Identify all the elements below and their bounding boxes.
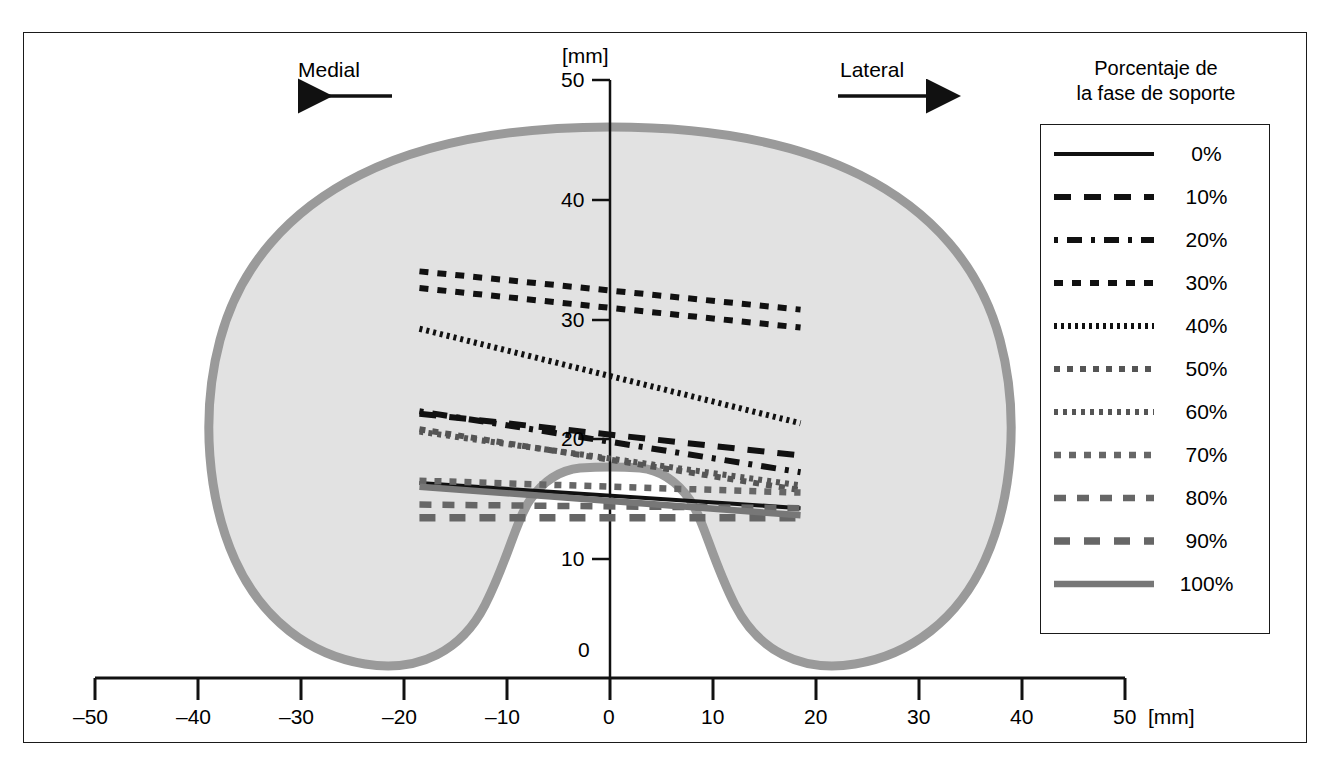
legend-label: 90% (1156, 529, 1271, 553)
x-tick--50: –50 (73, 705, 108, 729)
legend-label: 20% (1156, 228, 1271, 252)
legend-title: Porcentaje de la fase de soporte (1040, 56, 1272, 106)
figure-root: [mm] 50 40 30 20 10 0 –50 –40 –30 –20 –1… (0, 0, 1332, 761)
legend-item-50pct[interactable]: 50% (1041, 348, 1271, 390)
x-tick-30: 30 (907, 705, 930, 729)
y-tick-30: 30 (561, 308, 584, 332)
y-tick-40: 40 (561, 188, 584, 212)
legend-item-60pct[interactable]: 60% (1041, 391, 1271, 433)
legend-title-line2: la fase de soporte (1040, 81, 1272, 106)
x-tick--10: –10 (485, 705, 520, 729)
legend-item-30pct[interactable]: 30% (1041, 262, 1271, 304)
legend-box: 0%10%20%30%40%50%60%70%80%90%100% (1040, 124, 1270, 634)
legend-label: 100% (1156, 572, 1271, 596)
legend-item-0pct[interactable]: 0% (1041, 133, 1271, 175)
legend-swatch-icon (1053, 577, 1156, 591)
legend-label: 50% (1156, 357, 1271, 381)
legend-swatch-icon (1053, 448, 1156, 462)
x-axis-unit-label: [mm] (1148, 705, 1195, 729)
x-tick-0: 0 (603, 705, 615, 729)
x-tick-50: 50 (1113, 705, 1136, 729)
series-line-80pct (419, 505, 800, 509)
x-tick--30: –30 (279, 705, 314, 729)
legend-label: 30% (1156, 271, 1271, 295)
y-axis-unit-label: [mm] (562, 44, 609, 68)
y-tick-20: 20 (561, 427, 584, 451)
y-tick-50: 50 (561, 68, 584, 92)
legend-item-40pct[interactable]: 40% (1041, 305, 1271, 347)
legend-item-80pct[interactable]: 80% (1041, 477, 1271, 519)
x-tick-40: 40 (1010, 705, 1033, 729)
x-axis (95, 678, 1125, 700)
x-tick-20: 20 (804, 705, 827, 729)
x-tick--20: –20 (382, 705, 417, 729)
medial-label: Medial (298, 58, 360, 82)
legend-item-70pct[interactable]: 70% (1041, 434, 1271, 476)
legend-swatch-icon (1053, 534, 1156, 548)
legend-label: 60% (1156, 400, 1271, 424)
lateral-label: Lateral (840, 58, 904, 82)
legend-label: 40% (1156, 314, 1271, 338)
legend-swatch-icon (1053, 276, 1156, 290)
legend-item-90pct[interactable]: 90% (1041, 520, 1271, 562)
legend-swatch-icon (1053, 233, 1156, 247)
legend-swatch-icon (1053, 190, 1156, 204)
legend-item-20pct[interactable]: 20% (1041, 219, 1271, 261)
legend-label: 0% (1156, 142, 1271, 166)
y-tick-0: 0 (578, 638, 590, 662)
legend-swatch-icon (1053, 405, 1156, 419)
legend-label: 70% (1156, 443, 1271, 467)
legend-item-100pct[interactable]: 100% (1041, 563, 1271, 605)
legend-swatch-icon (1053, 319, 1156, 333)
x-tick--40: –40 (176, 705, 211, 729)
legend-title-line1: Porcentaje de (1040, 56, 1272, 81)
x-tick-10: 10 (701, 705, 724, 729)
legend-swatch-icon (1053, 147, 1156, 161)
legend-label: 10% (1156, 185, 1271, 209)
legend-swatch-icon (1053, 362, 1156, 376)
y-tick-10: 10 (561, 547, 584, 571)
legend-label: 80% (1156, 486, 1271, 510)
legend-swatch-icon (1053, 491, 1156, 505)
legend-item-10pct[interactable]: 10% (1041, 176, 1271, 218)
